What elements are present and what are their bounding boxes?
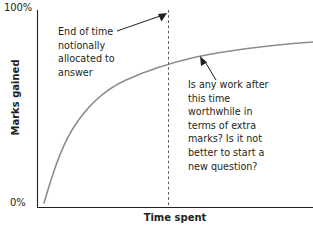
diminishing-returns-arrowhead bbox=[200, 56, 207, 66]
end-of-time-note-line: allocated to bbox=[58, 52, 144, 66]
diminishing-returns-note-line: terms of extra bbox=[188, 119, 306, 133]
diminishing-returns-note: Is any work after this time worthwhile i… bbox=[188, 78, 306, 173]
diminishing-returns-note-line: Is any work after bbox=[188, 78, 306, 92]
y-axis-tick-bottom: 0% bbox=[10, 197, 26, 208]
end-of-time-arrowhead bbox=[158, 13, 167, 22]
diminishing-returns-note-line: worthwhile in bbox=[188, 105, 306, 119]
end-of-time-note-line: answer bbox=[58, 66, 144, 80]
x-axis-title: Time spent bbox=[37, 212, 313, 223]
end-of-time-note-line: End of time bbox=[58, 25, 144, 39]
diminishing-returns-note-line: marks? Is it not bbox=[188, 132, 306, 146]
end-of-time-note: End of time notionally allocated to answ… bbox=[58, 25, 144, 79]
diminishing-returns-note-line: this time bbox=[188, 92, 306, 106]
y-axis-title: Marks gained bbox=[10, 57, 21, 139]
y-axis-tick-top: 100% bbox=[4, 2, 32, 13]
diminishing-returns-note-line: new question? bbox=[188, 160, 306, 174]
diminishing-returns-note-line: better to start a bbox=[188, 146, 306, 160]
chart-figure: 100% 0% Marks gained Time spent End of t… bbox=[0, 0, 313, 225]
end-of-time-note-line: notionally bbox=[58, 39, 144, 53]
